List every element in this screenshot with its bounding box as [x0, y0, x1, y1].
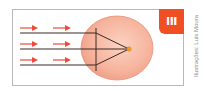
- panel-label: III: [166, 15, 177, 28]
- arrow-icon: [53, 25, 71, 31]
- arrow-icon: [53, 57, 71, 63]
- arrow-icon: [53, 41, 71, 47]
- direction-arrows: [20, 25, 71, 63]
- arrow-icon: [20, 25, 38, 31]
- arrow-icon: [20, 57, 38, 63]
- arrow-icon: [20, 41, 38, 47]
- panel-label-badge: III: [159, 9, 184, 34]
- eyeball: [81, 16, 153, 80]
- illustration-credit: Ilustrações: Luis Moura: [193, 15, 199, 77]
- focal-point: [127, 47, 131, 51]
